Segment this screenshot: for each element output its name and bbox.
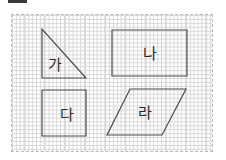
shape-label-da: 다 (60, 108, 74, 123)
crop-artifact-bar (8, 0, 27, 3)
shape-label-na: 나 (143, 47, 157, 62)
shape-label-ra: 라 (138, 106, 152, 121)
grid-worksheet-area (11, 14, 213, 152)
worksheet-screenshot: 가 나 다 라 (0, 0, 226, 160)
shape-label-ga: 가 (48, 58, 62, 73)
